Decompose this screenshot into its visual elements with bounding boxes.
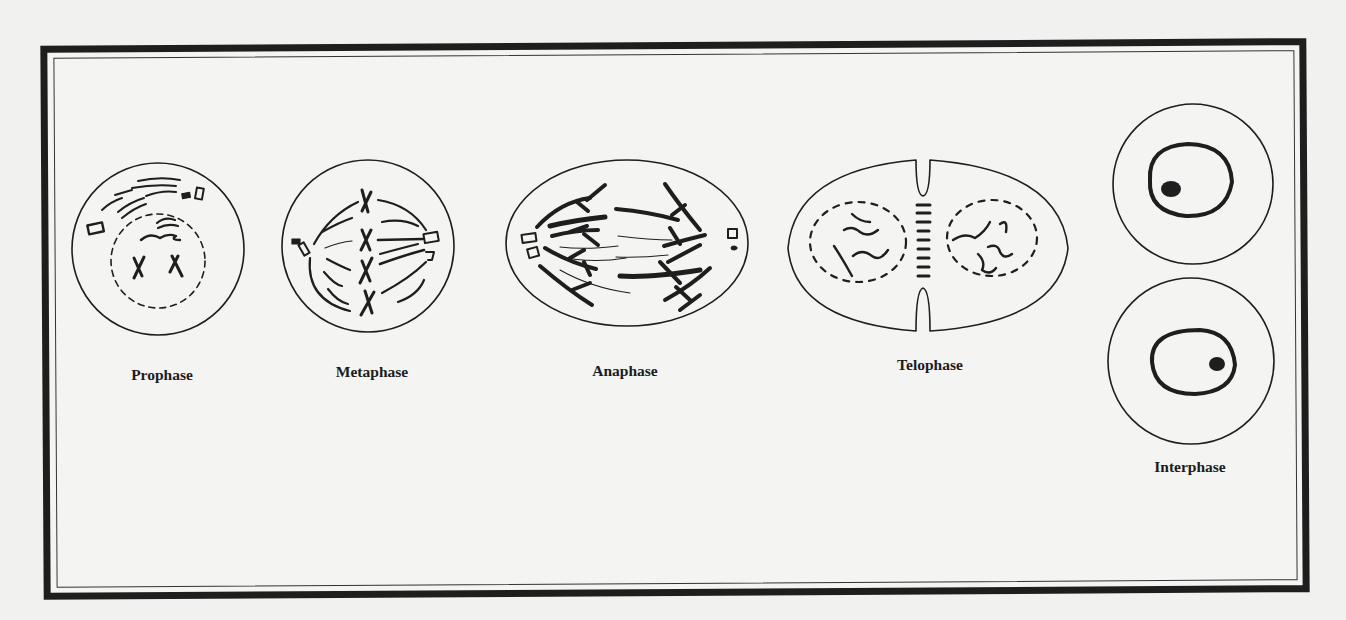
- interphase-label: Interphase: [1154, 458, 1225, 476]
- interphase-cell-bottom-icon: [1108, 278, 1274, 444]
- metaphase-label: Metaphase: [336, 363, 408, 381]
- prophase-cell-icon: [72, 163, 244, 335]
- metaphase-cell-icon: [282, 160, 454, 332]
- anaphase-cell-icon: [506, 160, 748, 326]
- mitosis-diagram: [0, 0, 1346, 620]
- telophase-label: Telophase: [897, 356, 963, 374]
- anaphase-label: Anaphase: [592, 362, 657, 380]
- interphase-cell-top-icon: [1113, 104, 1273, 264]
- prophase-label: Prophase: [131, 366, 193, 384]
- telophase-cell-icon: [788, 160, 1068, 331]
